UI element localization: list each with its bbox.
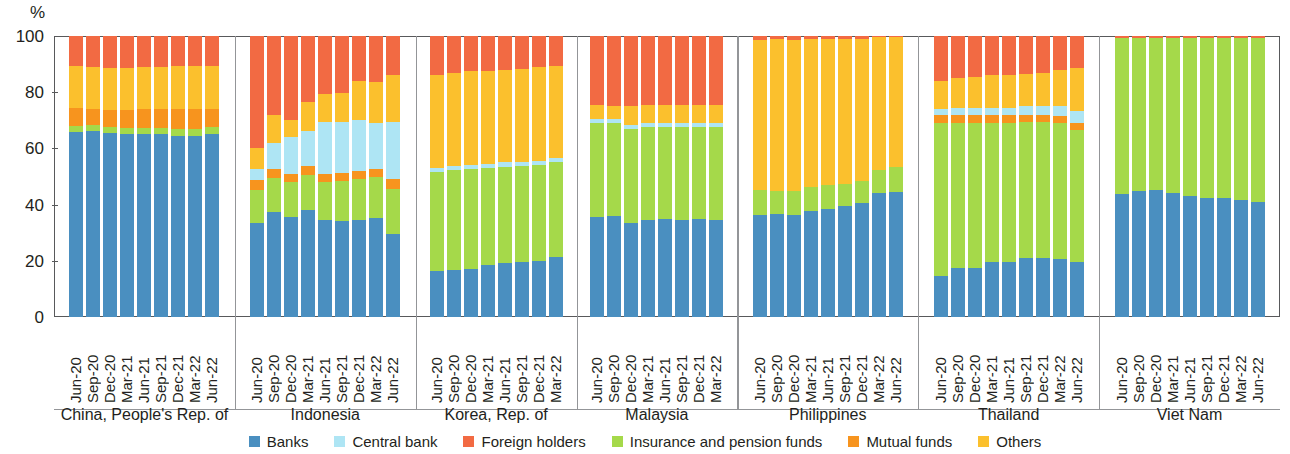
stacked-bar[interactable] bbox=[386, 36, 400, 317]
legend-item[interactable]: Foreign holders bbox=[463, 433, 585, 450]
stacked-bar[interactable] bbox=[369, 36, 383, 317]
bar-segment bbox=[481, 36, 495, 71]
stacked-bar[interactable] bbox=[481, 36, 495, 317]
stacked-bar[interactable] bbox=[1234, 36, 1248, 317]
panels-container bbox=[54, 36, 1280, 317]
bar-segment bbox=[386, 36, 400, 75]
stacked-bar[interactable] bbox=[770, 36, 784, 317]
stacked-bar[interactable] bbox=[1183, 36, 1197, 317]
x-tick-label: Sep-21 bbox=[1019, 319, 1033, 403]
stacked-bar[interactable] bbox=[318, 36, 332, 317]
stacked-bar[interactable] bbox=[641, 36, 655, 317]
stacked-bar[interactable] bbox=[284, 36, 298, 317]
bar-segment bbox=[1070, 36, 1084, 68]
stacked-bar[interactable] bbox=[1053, 36, 1067, 317]
bar-segment bbox=[985, 36, 999, 75]
bar-segment bbox=[284, 36, 298, 120]
bar-segment bbox=[250, 190, 264, 224]
stacked-bar[interactable] bbox=[188, 36, 202, 317]
stacked-bar[interactable] bbox=[709, 36, 723, 317]
stacked-bar[interactable] bbox=[607, 36, 621, 317]
bar-segment bbox=[968, 77, 982, 108]
stacked-bar[interactable] bbox=[498, 36, 512, 317]
stacked-bar[interactable] bbox=[1251, 36, 1265, 317]
bar-segment bbox=[386, 179, 400, 189]
stacked-bar[interactable] bbox=[624, 36, 638, 317]
stacked-bar[interactable] bbox=[787, 36, 801, 317]
legend-item[interactable]: Central bank bbox=[334, 433, 437, 450]
stacked-bar[interactable] bbox=[590, 36, 604, 317]
stacked-bar[interactable] bbox=[675, 36, 689, 317]
stacked-bar[interactable] bbox=[1217, 36, 1231, 317]
bar-segment bbox=[515, 69, 529, 162]
stacked-bar[interactable] bbox=[250, 36, 264, 317]
legend-item[interactable]: Others bbox=[978, 433, 1041, 450]
bar-segment bbox=[1019, 122, 1033, 258]
stacked-bar[interactable] bbox=[447, 36, 461, 317]
stacked-bar[interactable] bbox=[549, 36, 563, 317]
stacked-bar[interactable] bbox=[1002, 36, 1016, 317]
bar-segment bbox=[675, 36, 689, 105]
stacked-bar[interactable] bbox=[205, 36, 219, 317]
bar-segment bbox=[1132, 191, 1146, 317]
stacked-bar[interactable] bbox=[658, 36, 672, 317]
bar-segment bbox=[447, 170, 461, 270]
stacked-bar[interactable] bbox=[968, 36, 982, 317]
stacked-bar[interactable] bbox=[120, 36, 134, 317]
stacked-bar[interactable] bbox=[69, 36, 83, 317]
bar-segment bbox=[692, 219, 706, 317]
stacked-bar[interactable] bbox=[1115, 36, 1129, 317]
bar-segment bbox=[86, 67, 100, 109]
stacked-bar[interactable] bbox=[872, 36, 886, 317]
x-tick-label: Jun-21 bbox=[1183, 319, 1197, 403]
stacked-bar[interactable] bbox=[753, 36, 767, 317]
stacked-bar[interactable] bbox=[692, 36, 706, 317]
legend-item[interactable]: Mutual funds bbox=[848, 433, 952, 450]
stacked-bar[interactable] bbox=[267, 36, 281, 317]
bar-segment bbox=[641, 220, 655, 317]
bar-segment bbox=[838, 184, 852, 206]
stacked-bar[interactable] bbox=[464, 36, 478, 317]
x-tick-label: Dec-20 bbox=[624, 319, 638, 403]
legend-item[interactable]: Banks bbox=[249, 433, 309, 450]
stacked-bar[interactable] bbox=[352, 36, 366, 317]
stacked-bar[interactable] bbox=[1200, 36, 1214, 317]
stacked-bar[interactable] bbox=[515, 36, 529, 317]
stacked-bar[interactable] bbox=[154, 36, 168, 317]
bar-segment bbox=[532, 67, 546, 161]
stacked-bar[interactable] bbox=[301, 36, 315, 317]
bar-segment bbox=[770, 191, 784, 215]
bar-segment bbox=[934, 276, 948, 317]
legend-item[interactable]: Insurance and pension funds bbox=[612, 433, 823, 450]
stacked-bar[interactable] bbox=[889, 36, 903, 317]
x-label-group: Jun-20Sep-20Dec-20Mar-21Jun-21Sep-21Dec-… bbox=[235, 319, 416, 405]
stacked-bar[interactable] bbox=[335, 36, 349, 317]
stacked-bar[interactable] bbox=[1036, 36, 1050, 317]
stacked-bar[interactable] bbox=[532, 36, 546, 317]
stacked-bar[interactable] bbox=[838, 36, 852, 317]
stacked-bar[interactable] bbox=[804, 36, 818, 317]
bar-segment bbox=[1019, 74, 1033, 106]
stacked-bar[interactable] bbox=[430, 36, 444, 317]
stacked-bar[interactable] bbox=[1019, 36, 1033, 317]
panel-separator bbox=[416, 36, 417, 410]
stacked-bar[interactable] bbox=[934, 36, 948, 317]
x-tick-label: Jun-20 bbox=[934, 319, 948, 403]
stacked-bar[interactable] bbox=[171, 36, 185, 317]
bar-segment bbox=[951, 268, 965, 317]
stacked-bar[interactable] bbox=[1149, 36, 1163, 317]
stacked-bar[interactable] bbox=[137, 36, 151, 317]
stacked-bar[interactable] bbox=[1132, 36, 1146, 317]
stacked-bar[interactable] bbox=[1070, 36, 1084, 317]
bar-segment bbox=[1053, 70, 1067, 107]
stacked-bar[interactable] bbox=[985, 36, 999, 317]
stacked-bar[interactable] bbox=[103, 36, 117, 317]
bar-segment bbox=[889, 37, 903, 167]
legend-label: Insurance and pension funds bbox=[630, 433, 823, 450]
stacked-bar[interactable] bbox=[855, 36, 869, 317]
stacked-bar[interactable] bbox=[821, 36, 835, 317]
stacked-bar[interactable] bbox=[86, 36, 100, 317]
stacked-bar[interactable] bbox=[1166, 36, 1180, 317]
bar-segment bbox=[1019, 258, 1033, 317]
stacked-bar[interactable] bbox=[951, 36, 965, 317]
